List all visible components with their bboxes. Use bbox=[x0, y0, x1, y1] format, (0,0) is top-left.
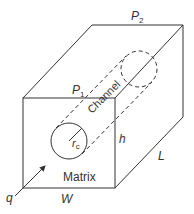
label-length: L bbox=[158, 149, 165, 163]
channel-back-circle bbox=[121, 51, 157, 87]
label-flow: q bbox=[6, 191, 13, 205]
label-width: W bbox=[61, 192, 74, 206]
channel bbox=[51, 51, 157, 159]
block-outline bbox=[23, 25, 183, 188]
label-matrix: Matrix bbox=[63, 170, 96, 184]
label-radius: rc bbox=[72, 137, 80, 151]
right-face bbox=[115, 25, 183, 188]
channel-lower-edge bbox=[82, 82, 152, 154]
label-height: h bbox=[119, 132, 126, 146]
label-p1: P1 bbox=[72, 83, 85, 99]
label-p2: P2 bbox=[131, 9, 144, 25]
flow-arrow-icon bbox=[15, 166, 45, 196]
diagram-canvas: P2 P1 Channel rc h L Matrix W q bbox=[0, 0, 194, 214]
top-face bbox=[23, 25, 183, 98]
